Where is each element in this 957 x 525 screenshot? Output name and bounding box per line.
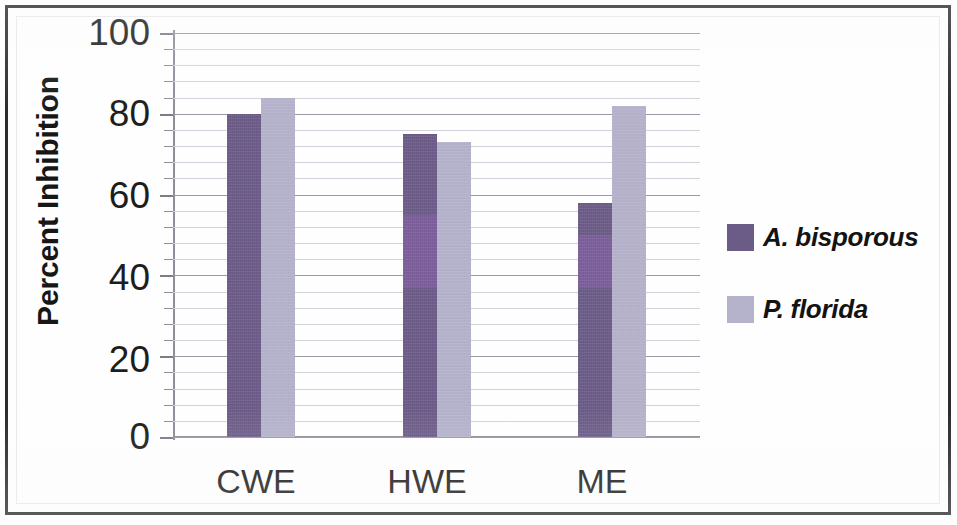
- y-tick-mark-minor: [164, 81, 173, 82]
- y-tick-label-60: 60: [30, 177, 150, 214]
- y-tick-label-80: 80: [30, 95, 150, 132]
- gridline-minor: [173, 49, 700, 50]
- bar-cwe-p-florida: [261, 98, 295, 437]
- bar-me-a-bisporous: [578, 203, 612, 437]
- y-tick-mark-minor: [164, 65, 173, 66]
- y-tick-mark-minor: [164, 308, 173, 309]
- y-tick-mark-20: [160, 356, 173, 358]
- bar-scan-band: [403, 215, 437, 288]
- y-tick-mark-60: [160, 195, 173, 197]
- gridline-minor: [173, 98, 700, 99]
- legend-item-p-florida: P. florida: [727, 294, 942, 324]
- bar-hwe-a-bisporous: [403, 134, 437, 437]
- bar-texture: [261, 98, 295, 437]
- legend-label-p-florida: P. florida: [763, 294, 868, 325]
- y-tick-mark-100: [160, 33, 173, 35]
- y-tick-mark-minor: [164, 146, 173, 147]
- plot-area: [173, 33, 700, 437]
- gridline-minor: [173, 81, 700, 82]
- y-tick-mark-minor: [164, 372, 173, 373]
- legend-swatch-a-bisporous: [727, 224, 754, 251]
- x-tick-label-hwe: HWE: [337, 462, 517, 501]
- bar-texture: [227, 114, 261, 437]
- bar-me-p-florida: [612, 106, 646, 437]
- y-tick-mark-minor: [164, 178, 173, 179]
- y-tick-mark-minor: [164, 130, 173, 131]
- bar-cwe-a-bisporous: [227, 114, 261, 437]
- legend-item-a-bisporous: A. bisporous: [727, 222, 942, 252]
- y-tick-mark-40: [160, 275, 173, 277]
- y-tick-mark-minor: [164, 389, 173, 390]
- y-tick-mark-0: [160, 437, 173, 439]
- y-tick-label-0: 0: [30, 418, 150, 455]
- y-tick-mark-minor: [164, 292, 173, 293]
- y-tick-mark-minor: [164, 340, 173, 341]
- bar-texture: [612, 106, 646, 437]
- gridline-minor: [173, 65, 700, 66]
- y-tick-mark-minor: [164, 49, 173, 50]
- gridline-major-0: [173, 437, 700, 438]
- legend-swatch-p-florida: [727, 296, 754, 323]
- y-tick-mark-minor: [164, 243, 173, 244]
- bar-scan-band: [578, 235, 612, 288]
- legend: A. bisporous P. florida: [727, 222, 942, 366]
- y-tick-mark-minor: [164, 259, 173, 260]
- y-tick-mark-minor: [164, 227, 173, 228]
- legend-label-a-bisporous: A. bisporous: [763, 222, 918, 253]
- y-tick-label-100: 100: [30, 14, 150, 51]
- y-tick-mark-minor: [164, 405, 173, 406]
- chart-figure: Percent Inhibition 100 80 60 40 20 0 CWE…: [0, 0, 957, 525]
- y-tick-mark-minor: [164, 324, 173, 325]
- y-tick-label-40: 40: [30, 259, 150, 296]
- y-tick-mark-minor: [164, 98, 173, 99]
- y-tick-mark-minor: [164, 421, 173, 422]
- y-tick-mark-80: [160, 114, 173, 116]
- bar-hwe-p-florida: [437, 142, 471, 437]
- gridline-major-100: [173, 33, 700, 34]
- x-tick-label-me: ME: [512, 462, 692, 501]
- y-tick-mark-minor: [164, 162, 173, 163]
- y-tick-mark-minor: [164, 211, 173, 212]
- y-tick-label-20: 20: [30, 341, 150, 378]
- y-axis-line: [173, 30, 175, 440]
- x-tick-label-cwe: CWE: [166, 462, 346, 501]
- bar-texture: [437, 142, 471, 437]
